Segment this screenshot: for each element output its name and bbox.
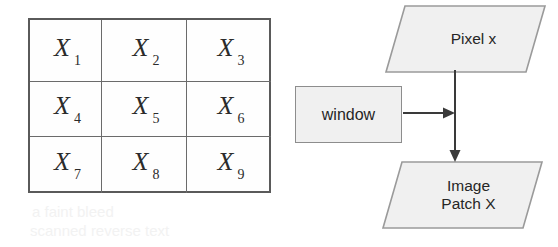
matrix-cell-7: X7	[30, 137, 102, 193]
node-window-label: window	[322, 106, 375, 124]
matrix-cell-label: X3	[218, 35, 241, 61]
matrix-cell-4: X4	[30, 82, 102, 137]
matrix-cell-2: X2	[102, 20, 187, 82]
matrix-cell-6: X6	[187, 82, 271, 137]
matrix-cell-8: X8	[102, 137, 187, 193]
matrix-cell-5: X5	[102, 82, 187, 137]
matrix-cell-label: X2	[133, 35, 156, 61]
matrix-cell-1: X1	[30, 20, 102, 82]
arrow-window-to-edge-head	[443, 108, 455, 119]
matrix-cell-label: X9	[218, 149, 241, 175]
matrix-cell-9: X9	[187, 137, 271, 193]
scan-artifact-line-1: a faint bleed	[32, 203, 114, 220]
matrix-cell-label: X1	[54, 35, 77, 61]
scan-artifact-line-2: scanned reverse text	[30, 222, 169, 239]
parallelogram-shape-icon	[381, 160, 544, 230]
matrix-grid: X1 X2 X3 X4 X5 X6 X7 X8 X9	[28, 18, 271, 193]
matrix-cell-label: X8	[133, 149, 156, 175]
node-pixel-x: Pixel x	[384, 4, 547, 74]
matrix-cell-label: X7	[54, 149, 77, 175]
matrix-cell-label: X4	[54, 93, 77, 119]
matrix-cell-label: X6	[218, 93, 241, 119]
parallelogram-shape-icon	[384, 4, 547, 74]
figure-canvas: X1 X2 X3 X4 X5 X6 X7 X8 X9 Pixel	[0, 0, 558, 247]
matrix-cell-3: X3	[187, 20, 271, 82]
node-window: window	[295, 86, 402, 143]
node-image-patch: Image Patch X	[381, 160, 544, 230]
matrix-cell-label: X5	[133, 93, 156, 119]
